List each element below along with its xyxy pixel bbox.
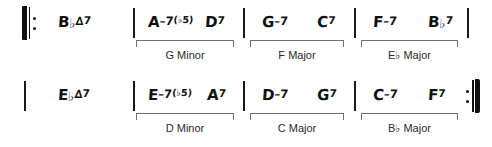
barline <box>24 81 26 111</box>
analysis-key-label: C Major <box>250 122 344 134</box>
repeat-thin-line <box>29 7 31 39</box>
chord-extension: 7 <box>217 14 225 26</box>
analysis-key-label: D Minor <box>136 122 234 134</box>
chord-symbol: C–7 <box>372 86 398 104</box>
analysis-bracket <box>250 113 344 120</box>
chord-symbol: G7 <box>316 86 337 104</box>
analysis-bracket <box>136 40 234 47</box>
analysis-bracket <box>250 40 344 47</box>
barline <box>133 8 135 38</box>
analysis-key-label: E♭ Major <box>361 49 458 62</box>
analysis-bracket <box>361 113 458 120</box>
repeat-thick-line <box>22 6 27 40</box>
chord-symbol: F7 <box>427 86 446 104</box>
chord-symbol: F–7 <box>372 13 397 31</box>
barline <box>243 8 245 38</box>
chord-quality: –7 <box>274 14 289 28</box>
repeat-start-barline <box>22 6 38 40</box>
chord-symbol: E–7(♭5) <box>147 86 192 104</box>
chord-quality: –7 <box>384 87 399 101</box>
chord-root: G <box>261 13 275 31</box>
chord-extension: 7 <box>329 87 337 99</box>
analysis-bracket <box>136 113 234 120</box>
analysis-key-label: G Minor <box>136 49 234 61</box>
chord-symbol: D–7 <box>261 86 288 104</box>
chord-root: C <box>372 86 384 104</box>
repeat-end-barline <box>462 79 480 113</box>
repeat-dot-upper <box>466 90 469 93</box>
chord-root: A <box>147 13 160 31</box>
barline <box>133 81 135 111</box>
barline <box>354 8 356 38</box>
barline <box>354 81 356 111</box>
analysis-key-label: B♭ Major <box>361 122 458 135</box>
analysis-bracket <box>361 40 458 47</box>
barline <box>243 81 245 111</box>
repeat-dot-upper <box>33 17 36 20</box>
chord-alteration: (♭5) <box>173 14 194 25</box>
chord-symbol: A–7(♭5) <box>147 13 193 31</box>
chord-quality: –7 <box>383 14 398 28</box>
repeat-thin-line <box>472 80 474 112</box>
analysis-key-label: F Major <box>250 49 344 61</box>
system-2: E♭∆7 E–7(♭5) A7 D Minor D–7 G7 C Major C… <box>0 73 492 146</box>
chord-extension: 7 <box>438 87 446 99</box>
system-1: B♭∆7 A–7(♭5) D7 G Minor G–7 C7 F Major F… <box>0 0 492 73</box>
chord-extension: 7 <box>445 14 453 26</box>
chord-extension: 7 <box>328 14 336 26</box>
chord-symbol: E♭∆7 <box>57 86 90 104</box>
chord-symbol: B♭7 <box>427 13 453 31</box>
chord-extension: 7 <box>82 87 90 99</box>
chord-root: A <box>206 86 219 104</box>
chord-symbol: C7 <box>316 13 336 31</box>
repeat-dot-lower <box>33 27 36 30</box>
chord-symbol: A7 <box>206 86 226 104</box>
chord-quality: –7 <box>159 14 174 28</box>
chord-extension: 7 <box>83 14 91 26</box>
chord-symbol: G–7 <box>261 13 288 31</box>
chord-extension: 7 <box>218 87 226 99</box>
chord-root: G <box>316 86 330 104</box>
chord-root: C <box>316 13 328 31</box>
repeat-thick-line <box>475 79 480 113</box>
chord-symbol: B♭∆7 <box>57 13 91 31</box>
chord-quality: –7 <box>158 87 173 101</box>
chord-quality: –7 <box>274 87 289 101</box>
chord-alteration: (♭5) <box>172 87 193 98</box>
repeat-dot-lower <box>466 100 469 103</box>
chord-chart: B♭∆7 A–7(♭5) D7 G Minor G–7 C7 F Major F… <box>0 0 492 147</box>
chord-symbol: D7 <box>204 13 225 31</box>
barline <box>467 8 469 38</box>
